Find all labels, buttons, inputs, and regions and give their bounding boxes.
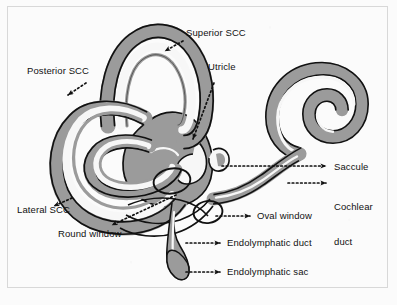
label-posterior-scc: Posterior SCC: [27, 65, 89, 77]
cochlea-spiral: [266, 62, 368, 160]
figure-canvas: Superior SCC Posterior SCC Utricle Saccu…: [0, 0, 397, 305]
label-round-window: Round window: [58, 228, 122, 240]
label-cochlear-duct-line1: Cochlear: [334, 201, 373, 213]
label-endolymphatic-sac: Endolymphatic sac: [227, 266, 308, 278]
label-oval-window: Oval window: [257, 210, 312, 222]
leader-posterior-scc: [68, 83, 86, 95]
label-cochlear-duct-line2: duct: [334, 236, 373, 248]
label-lateral-scc: Lateral SCC: [17, 204, 70, 216]
endolymphatic-sac-body: [167, 250, 189, 280]
label-saccule: Saccule: [334, 161, 369, 173]
label-endolymphatic-duct: Endolymphatic duct: [227, 237, 312, 249]
label-superior-scc: Superior SCC: [186, 27, 246, 39]
label-utricle: Utricle: [208, 61, 236, 73]
label-cochlear-duct: Cochlear duct: [334, 178, 373, 270]
